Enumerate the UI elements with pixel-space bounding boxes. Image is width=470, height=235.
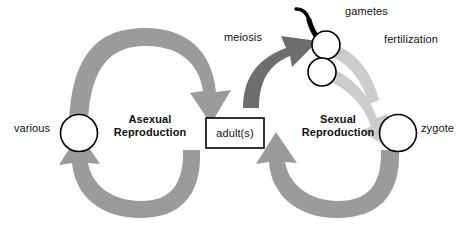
node-zygote [380, 115, 417, 152]
label-gametes: gametes [345, 5, 388, 18]
label-adults: adult(s) [207, 127, 263, 140]
label-fertilization: fertilization [384, 33, 438, 46]
label-asexual-line2: Reproduction [104, 126, 196, 139]
label-sexual-line2: Reproduction [292, 126, 384, 139]
label-sexual-line1: Sexual [292, 113, 384, 126]
node-various [61, 115, 98, 152]
label-zygote: zygote [421, 122, 454, 135]
label-various: various [14, 122, 50, 135]
arrow-meiosis [243, 36, 318, 108]
egg-cell-icon [308, 58, 336, 86]
sperm-cell-icon [312, 31, 340, 59]
arrow-sexual-bottom [256, 132, 399, 218]
label-asexual-reproduction: Asexual Reproduction [104, 113, 196, 139]
label-sexual-reproduction: Sexual Reproduction [292, 113, 384, 139]
label-asexual-line1: Asexual [104, 113, 196, 126]
diagram-canvas: various gametes zygote meiosis fertiliza… [0, 0, 470, 235]
label-meiosis: meiosis [224, 31, 262, 44]
